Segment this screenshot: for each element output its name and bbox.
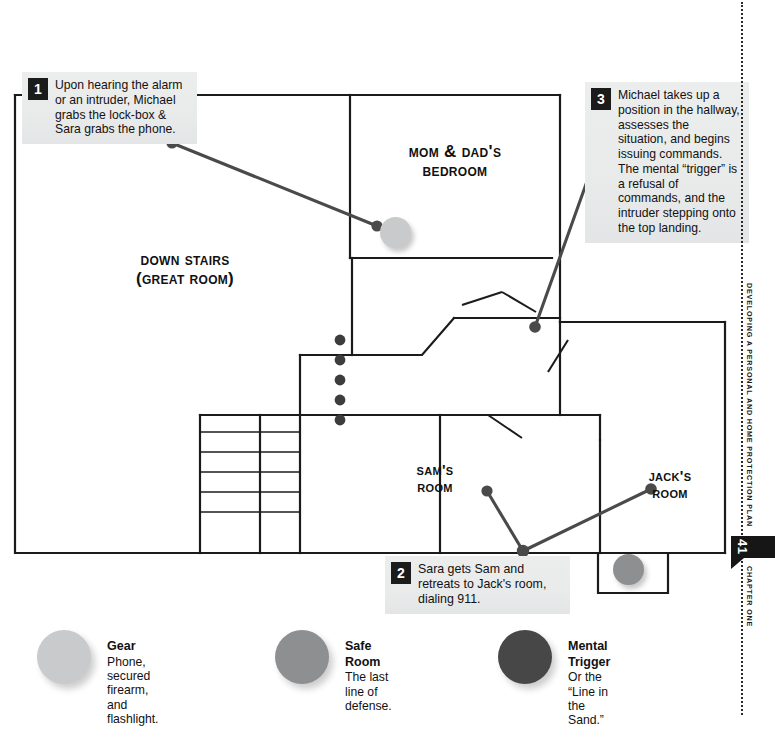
plan-marker-safe-room: [613, 554, 644, 585]
door-jack-upper: [548, 340, 568, 372]
legend-title-gear: Gear: [107, 639, 158, 655]
chapter-label: CHAPTER ONE: [745, 566, 754, 627]
mental-trigger-dots: [335, 335, 346, 426]
trigger-dot-2: [335, 355, 346, 366]
legend-desc-safe-room: The last line of defense.: [345, 670, 392, 713]
legend: Gear Phone, secured firearm, and flashli…: [0, 618, 775, 713]
callout-step-2: 2 Sara gets Sam and retreats to Jack's r…: [385, 556, 570, 614]
legend-swatch-gear: [37, 630, 91, 684]
legend-swatch-safe-room: [275, 630, 329, 684]
callout-step-1-number: 1: [28, 78, 48, 100]
callout-step-3-text: Michael takes up a position in the hallw…: [618, 88, 741, 236]
callout-step-1: 1 Upon hearing the alarm or an intruder,…: [22, 72, 197, 144]
callout-step-3-number: 3: [591, 88, 611, 110]
door-sam: [488, 415, 522, 438]
callout-step-3: 3 Michael takes up a position in the hal…: [585, 82, 749, 243]
callout-step-1-text: Upon hearing the alarm or an intruder, M…: [55, 78, 189, 137]
trigger-dot-3: [335, 375, 346, 386]
page-number-tab: 41: [731, 536, 775, 558]
book-page: Mom & Dad's Bedroom Down Stairs (Great R…: [0, 0, 775, 747]
margin-dotted-rule: [741, 2, 743, 715]
callout-step-2-number: 2: [391, 562, 411, 584]
trigger-dot-4: [335, 395, 346, 406]
door-hall-right: [502, 292, 536, 312]
legend-title-safe-room: Safe Room: [345, 639, 392, 670]
page-tab-notch: [731, 558, 744, 569]
room-label-down-stairs-great-room: Down Stairs (Great Room): [70, 250, 300, 288]
legend-text-safe-room: Safe Room The last line of defense.: [345, 639, 392, 713]
door-hall-left: [462, 292, 502, 305]
leader-2a: [487, 491, 523, 551]
legend-swatch-mental-trigger: [498, 630, 552, 684]
room-label-mom-and-dads-bedroom: Mom & Dad's Bedroom: [360, 142, 550, 180]
legend-desc-mental-trigger: Or the “Line in the Sand.”: [568, 670, 610, 728]
callout-step-2-text: Sara gets Sam and retreats to Jack's roo…: [418, 562, 562, 607]
legend-desc-gear: Phone, secured firearm, and flashlight.: [107, 655, 158, 727]
stair-treads: [200, 432, 300, 512]
room-label-jacks-room: Jack's Room: [615, 468, 725, 502]
legend-text-mental-trigger: Mental Trigger Or the “Line in the Sand.…: [568, 639, 610, 728]
leader-dot-3-end: [529, 321, 541, 333]
wall-hall-angle-left: [352, 318, 454, 355]
room-label-sams-room: Sam's Room: [380, 462, 490, 496]
legend-text-gear: Gear Phone, secured firearm, and flashli…: [107, 639, 158, 727]
legend-title-mental-trigger: Mental Trigger: [568, 639, 610, 670]
leader-1: [172, 143, 377, 226]
running-head: DEVELOPING A PERSONAL AND HOME PROTECTIO…: [745, 283, 754, 527]
plan-marker-gear: [380, 217, 411, 248]
page-number: 41: [735, 539, 750, 554]
trigger-dot-5: [335, 415, 346, 426]
trigger-dot-1: [335, 335, 346, 346]
